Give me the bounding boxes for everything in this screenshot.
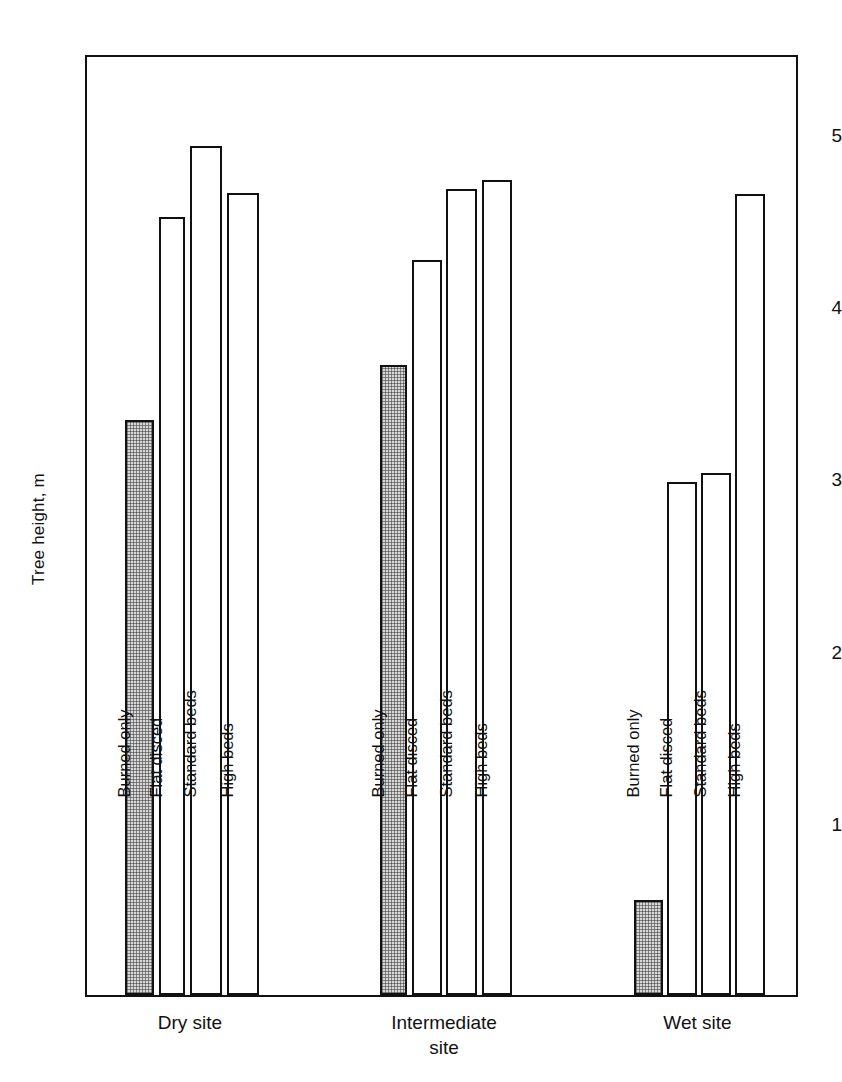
bar: Flat disced [159,217,185,995]
bar-label: Burned only [115,709,132,797]
bar: High beds [227,193,259,996]
bar-label: Flat disced [403,717,420,797]
y-tick-label: 5 [798,126,842,145]
bar-label: Standard beds [182,690,199,797]
bar-label: Standard beds [692,690,709,797]
y-tick-label: 4 [798,298,842,317]
bar: Flat disced [412,260,442,995]
bar: Standard beds [446,189,477,995]
bar-chart-figure: Tree height, m 12345 Burned onlyFlat dis… [0,0,842,1082]
y-tick-label: 3 [798,470,842,489]
bar-label: Burned only [369,709,386,797]
bar-label: Burned only [624,709,641,797]
plot-area: Burned onlyFlat discedStandard bedsHigh … [85,55,798,997]
bar-label: High beds [219,723,236,797]
bar-label: Flat disced [658,717,675,797]
bar-label: Standard beds [437,690,454,797]
bar: Burned only [380,365,407,995]
bar-label: High beds [726,723,743,797]
x-axis-group-label: Intermediate site [334,1010,554,1060]
bar: High beds [482,180,512,995]
bar-label: High beds [473,723,490,797]
x-axis-group-label: Wet site [588,1010,808,1035]
bar: Burned only [125,420,154,995]
y-tick-label: 2 [798,643,842,662]
x-axis-group-label: Dry site [80,1010,300,1035]
bar-label: Flat disced [148,717,165,797]
bar: Standard beds [190,146,222,995]
y-tick-label: 1 [798,815,842,834]
bar: Burned only [634,900,663,995]
y-axis-title: Tree height, m [24,58,54,1000]
bar: High beds [735,194,765,995]
